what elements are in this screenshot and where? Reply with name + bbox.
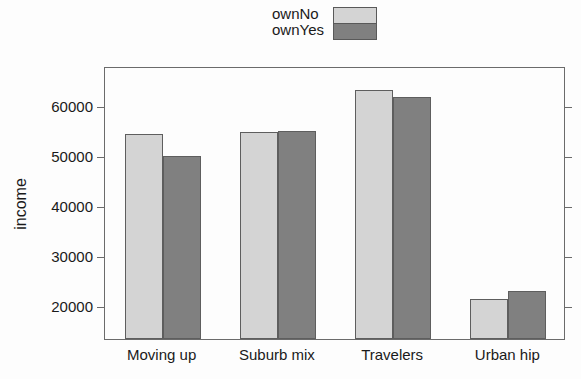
x-tick-label: Suburb mix — [239, 346, 315, 363]
y-tick-mark — [97, 157, 104, 158]
bar-ownyes-travelers — [393, 97, 431, 339]
x-tick-label: Travelers — [361, 346, 423, 363]
legend-label-ownyes: ownYes — [272, 22, 324, 38]
y-tick-label: 60000 — [0, 98, 93, 115]
legend-label-ownno: ownNo — [272, 6, 324, 22]
y-tick-mark — [97, 207, 104, 208]
bar-chart-figure: ownNo ownYes income 20000300004000050000… — [0, 0, 581, 379]
chart-legend: ownNo ownYes — [272, 6, 377, 40]
x-tick-label: Moving up — [127, 346, 196, 363]
bar-ownno-urban-hip — [470, 299, 508, 339]
y-tick-label: 50000 — [0, 148, 93, 165]
plot-area — [105, 68, 564, 339]
y-tick-mark-right — [565, 207, 572, 208]
legend-swatch-ownyes — [334, 24, 376, 39]
bar-ownyes-urban-hip — [508, 291, 546, 339]
bar-ownyes-moving-up — [163, 156, 201, 339]
legend-swatch-ownno — [334, 8, 376, 24]
bar-ownno-travelers — [355, 90, 393, 339]
bar-ownno-moving-up — [125, 134, 163, 339]
y-tick-mark-right — [565, 257, 572, 258]
y-tick-mark — [97, 307, 104, 308]
legend-labels: ownNo ownYes — [272, 6, 324, 38]
y-tick-mark-right — [565, 107, 572, 108]
plot-frame — [104, 67, 565, 340]
y-tick-mark-right — [565, 157, 572, 158]
y-tick-mark — [97, 257, 104, 258]
legend-swatches — [333, 7, 377, 40]
x-tick-label: Urban hip — [475, 346, 540, 363]
bar-ownno-suburb-mix — [240, 132, 278, 339]
y-tick-label: 20000 — [0, 298, 93, 315]
bar-ownyes-suburb-mix — [278, 131, 316, 339]
y-tick-mark — [97, 107, 104, 108]
y-tick-label: 40000 — [0, 198, 93, 215]
y-tick-mark-right — [565, 307, 572, 308]
y-tick-label: 30000 — [0, 248, 93, 265]
